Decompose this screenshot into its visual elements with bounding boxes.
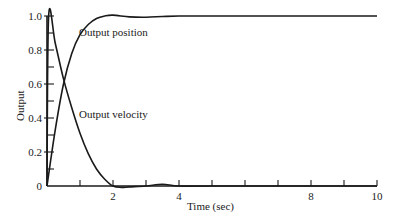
axes — [47, 16, 377, 186]
x-axis-label: Time (sec) — [187, 200, 234, 213]
y-tick-label: 0.8 — [28, 44, 42, 56]
tick-labels: 00.20.40.60.81.024810 — [28, 10, 383, 202]
x-tick-label: 4 — [176, 190, 182, 202]
x-tick-label: 8 — [308, 190, 314, 202]
y-tick-label: 0.2 — [28, 146, 42, 158]
series-label-position: Output position — [79, 26, 148, 38]
y-tick-label: 0 — [37, 180, 43, 192]
y-tick-label: 1.0 — [28, 10, 42, 22]
y-tick-label: 0.6 — [28, 78, 42, 90]
y-tick-label: 0.4 — [28, 112, 42, 124]
x-tick-label: 10 — [372, 190, 384, 202]
series-output-position — [47, 15, 377, 186]
ticks — [44, 16, 377, 186]
series-label-velocity: Output velocity — [79, 108, 148, 120]
x-tick-label: 2 — [110, 190, 116, 202]
line-chart: 00.20.40.60.81.024810 Output position Ou… — [0, 0, 398, 219]
y-axis-label: Output — [14, 90, 26, 121]
